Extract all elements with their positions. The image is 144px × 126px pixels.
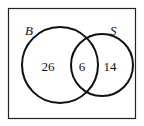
- set-s-label: S: [110, 23, 117, 38]
- intersection-count: 6: [79, 59, 86, 74]
- set-b-only-count: 26: [42, 59, 56, 74]
- set-s-only-count: 14: [104, 59, 118, 74]
- set-b-label: B: [25, 23, 33, 38]
- venn-diagram: B S 26 6 14: [0, 0, 144, 126]
